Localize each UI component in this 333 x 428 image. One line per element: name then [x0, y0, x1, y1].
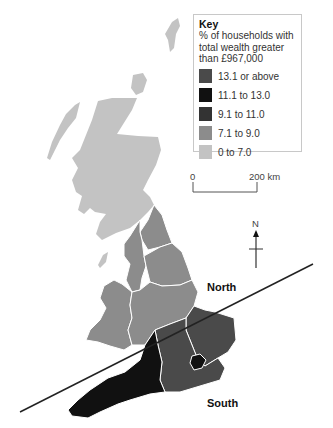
- swatch-7-9: [199, 126, 212, 140]
- swatch-13-plus: [199, 69, 212, 83]
- south-region-label: South: [207, 397, 238, 409]
- key-item-label: 13.1 or above: [218, 71, 279, 82]
- swatch-9-11: [199, 107, 212, 121]
- key-item: 7.1 to 9.0: [199, 126, 296, 141]
- region-scotland: [72, 98, 161, 240]
- swatch-0-7: [199, 145, 212, 159]
- map-key: Key % of households with total wealth gr…: [193, 14, 302, 152]
- key-item-label: 9.1 to 11.0: [218, 109, 265, 120]
- key-item-label: 7.1 to 9.0: [218, 128, 260, 139]
- key-item-label: 11.1 to 13.0: [218, 90, 270, 101]
- scale-start-label: 0: [190, 171, 195, 182]
- shetland-islands: [165, 18, 180, 52]
- scale-end-label: 200 km: [249, 171, 280, 182]
- north-region-label: North: [207, 281, 236, 293]
- key-description: % of households with total wealth greate…: [199, 30, 296, 65]
- north-arrow-icon: [249, 230, 263, 268]
- outer-hebrides: [47, 102, 80, 160]
- key-item: 0 to 7.0: [199, 145, 296, 160]
- swatch-11-13: [199, 88, 212, 102]
- key-item: 9.1 to 11.0: [199, 107, 296, 122]
- key-item: 13.1 or above: [199, 69, 296, 84]
- isle-of-man: [98, 252, 108, 268]
- key-item-label: 0 to 7.0: [218, 147, 251, 158]
- orkney-islands: [131, 73, 147, 95]
- region-wales: [86, 280, 132, 350]
- north-label: N: [252, 218, 259, 229]
- key-item: 11.1 to 13.0: [199, 88, 296, 103]
- key-title: Key: [199, 18, 296, 30]
- scale-bar: [193, 182, 257, 192]
